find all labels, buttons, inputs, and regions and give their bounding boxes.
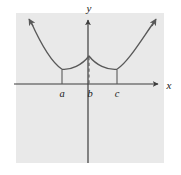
x-tick-label-a: a	[59, 88, 64, 99]
x-tick-label-b: b	[87, 88, 92, 99]
graph-canvas: a b c x y	[0, 0, 181, 175]
figure-container: a b c x y	[0, 0, 181, 175]
x-axis-label: x	[166, 79, 172, 91]
y-axis-label: y	[86, 2, 92, 14]
x-tick-label-c: c	[115, 88, 120, 99]
